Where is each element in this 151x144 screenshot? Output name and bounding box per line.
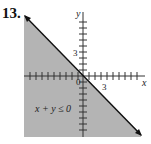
origin-label: 0: [76, 77, 81, 87]
inequality-graph: y x 0 3 3 x + y ≤ 0: [0, 0, 151, 144]
x-tick-label: 3: [102, 82, 107, 92]
y-axis-label: y: [75, 8, 81, 19]
inequality-label: x + y ≤ 0: [34, 103, 71, 114]
y-tick-label: 3: [73, 48, 78, 58]
x-axis-label: x: [141, 77, 147, 88]
